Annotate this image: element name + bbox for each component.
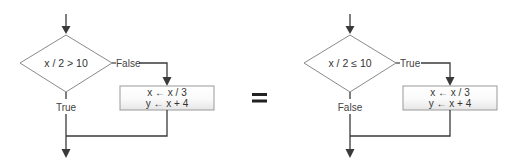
branch-label-right: False [116,58,141,69]
arrow-down-icon [62,149,71,158]
flowchart-comparison: x / 2 > 10 False x ← x / 3 y ← x + 4 Tru… [0,0,516,168]
condition-text: x / 2 ≤ 10 [328,57,371,69]
right-flowchart: x / 2 ≤ 10 True x ← x / 3 y ← x + 4 Fals… [304,14,497,158]
statement-2: y ← x + 4 [146,98,189,109]
branch-label-down: False [338,102,363,113]
arrow-down-icon [446,77,455,86]
statement-2: y ← x + 4 [429,98,472,109]
arrow-down-icon [163,77,172,86]
branch-label-down: True [56,102,77,113]
condition-text: x / 2 > 10 [44,57,88,69]
statement-1: x ← x / 3 [147,87,187,98]
left-flowchart: x / 2 > 10 False x ← x / 3 y ← x + 4 Tru… [20,14,214,158]
arrow-down-icon [346,26,355,34]
branch-label-right: True [400,58,421,69]
equals-sign [252,93,267,103]
arrow-down-icon [346,149,355,158]
entry-arrow [346,14,355,34]
arrow-down-icon [62,26,71,34]
entry-arrow [62,14,71,34]
statement-1: x ← x / 3 [430,87,470,98]
